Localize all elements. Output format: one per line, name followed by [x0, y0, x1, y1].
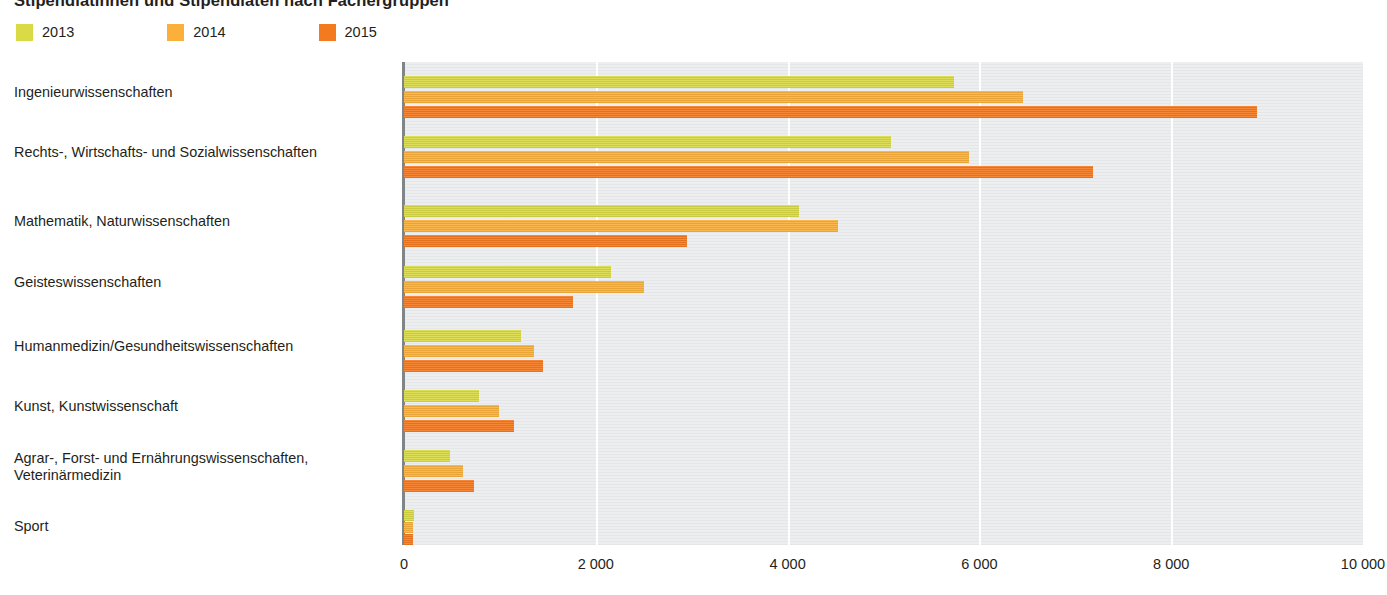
bar-2014 — [404, 465, 463, 477]
x-axis-tick-label: 10 000 — [1341, 556, 1385, 572]
x-axis-tick-label: 2 000 — [578, 556, 614, 572]
legend-swatch-icon — [319, 24, 336, 41]
bar-2015 — [404, 420, 514, 432]
legend-label: 2015 — [345, 25, 377, 40]
category-label: Ingenieurwissenschaften — [0, 84, 392, 101]
bar-2014 — [404, 405, 499, 417]
bar-2013 — [404, 510, 414, 521]
category-label: Sport — [0, 518, 392, 535]
legend-item-2014[interactable]: 2014 — [167, 24, 225, 41]
bar-2013 — [404, 76, 954, 88]
category-label: Mathematik, Naturwissenschaften — [0, 213, 392, 230]
legend-item-2013[interactable]: 2013 — [16, 24, 74, 41]
x-axis-tick-label: 6 000 — [961, 556, 997, 572]
bar-2015 — [404, 166, 1093, 178]
legend-label: 2014 — [193, 25, 225, 40]
bar-2013 — [404, 450, 450, 462]
gridline — [979, 62, 981, 545]
bar-2013 — [404, 205, 799, 217]
category-label: Rechts-, Wirtschafts- und Sozialwissensc… — [0, 144, 392, 161]
x-axis-tick-label: 0 — [400, 556, 408, 572]
legend-swatch-icon — [16, 24, 33, 41]
legend-item-2015[interactable]: 2015 — [319, 24, 377, 41]
bar-2014 — [404, 91, 1023, 103]
chart-legend: 201320142015 — [16, 24, 377, 41]
category-label: Geisteswissenschaften — [0, 274, 392, 291]
gridline — [1363, 62, 1365, 545]
gridline — [1171, 62, 1173, 545]
category-label: Agrar-, Forst- und Ernährungswissenschaf… — [0, 450, 392, 484]
bar-2014 — [404, 151, 969, 163]
bar-2014 — [404, 522, 413, 533]
bar-2013 — [404, 136, 891, 148]
bar-2013 — [404, 390, 479, 402]
x-axis-tick-label: 8 000 — [1153, 556, 1189, 572]
bar-2014 — [404, 281, 644, 293]
x-axis-tick-label: 4 000 — [769, 556, 805, 572]
page-title: Stipendiatinnen und Stipendiaten nach Fä… — [14, 0, 449, 10]
bar-2014 — [404, 220, 838, 232]
bar-2015 — [404, 480, 474, 492]
legend-swatch-icon — [167, 24, 184, 41]
gridline — [596, 62, 598, 545]
gridline — [788, 62, 790, 545]
bar-2015 — [404, 235, 687, 247]
category-label: Kunst, Kunstwissenschaft — [0, 398, 392, 415]
chart-page: Stipendiatinnen und Stipendiaten nach Fä… — [0, 0, 1387, 595]
bar-2013 — [404, 266, 611, 278]
category-label: Humanmedizin/Gesundheitswissenschaften — [0, 338, 392, 355]
bar-2015 — [404, 360, 543, 372]
bar-2015 — [404, 534, 413, 545]
legend-label: 2013 — [42, 25, 74, 40]
bar-2015 — [404, 106, 1257, 118]
bar-2014 — [404, 345, 534, 357]
bar-2013 — [404, 330, 521, 342]
bar-2015 — [404, 296, 573, 308]
